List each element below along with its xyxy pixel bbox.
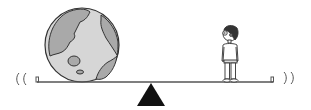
person-icon — [222, 26, 238, 83]
earth-icon — [45, 8, 119, 82]
motion-marks-left — [17, 73, 26, 85]
motion-marks-right — [284, 72, 293, 84]
fulcrum-icon — [137, 83, 165, 106]
seesaw-scene — [0, 0, 311, 110]
